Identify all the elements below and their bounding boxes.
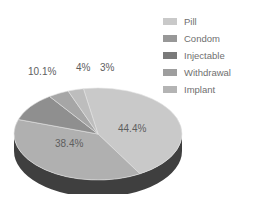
legend-item-withdrawal[interactable]: Withdrawal xyxy=(163,64,259,81)
legend-label-injectable: Injectable xyxy=(184,50,225,61)
pie-label-condom: 38.4% xyxy=(55,138,83,149)
legend-item-injectable[interactable]: Injectable xyxy=(163,47,259,64)
legend-item-pill[interactable]: Pill xyxy=(163,13,259,30)
pie-top-slices xyxy=(14,88,182,180)
pie-chart-figure: Pill Condom Injectable Withdrawal Implan… xyxy=(0,0,260,212)
legend-item-condom[interactable]: Condom xyxy=(163,30,259,47)
legend-swatch-injectable xyxy=(163,52,177,59)
legend-swatch-pill xyxy=(163,18,177,25)
pie-label-withdrawal: 4% xyxy=(76,62,90,73)
legend-label-implant: Implant xyxy=(184,84,215,95)
legend-label-condom: Condom xyxy=(184,33,220,44)
legend-swatch-withdrawal xyxy=(163,69,177,76)
legend-label-pill: Pill xyxy=(184,16,197,27)
pie-svg xyxy=(12,82,184,194)
pie-label-implant: 3% xyxy=(100,62,114,73)
pie-label-pill: 44.4% xyxy=(118,123,146,134)
pie-label-injectable: 10.1% xyxy=(28,66,56,77)
legend-label-withdrawal: Withdrawal xyxy=(184,67,231,78)
pie-graphic xyxy=(12,82,184,194)
legend-swatch-condom xyxy=(163,35,177,42)
